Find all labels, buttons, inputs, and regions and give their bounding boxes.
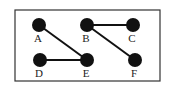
node-label-a: A [34, 32, 42, 44]
node-f [128, 53, 142, 67]
edge-a-e [39, 25, 87, 60]
node-b [80, 18, 94, 32]
node-label-c: C [128, 32, 135, 44]
node-label-f: F [131, 67, 137, 79]
node-c [126, 18, 140, 32]
graph-diagram: ABCDEF [0, 0, 170, 88]
node-e [80, 53, 94, 67]
node-d [33, 53, 47, 67]
node-label-e: E [83, 67, 90, 79]
node-a [32, 18, 46, 32]
node-label-b: B [82, 32, 89, 44]
node-label-d: D [35, 67, 43, 79]
